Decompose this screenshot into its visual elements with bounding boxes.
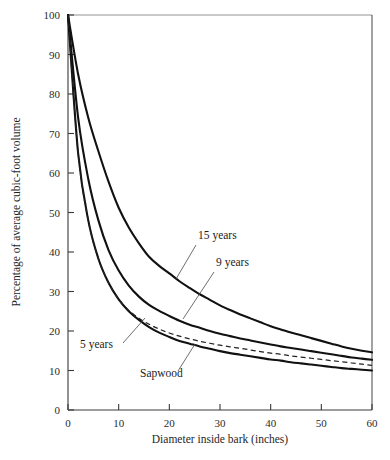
annotation-leader-line [176, 245, 196, 279]
y-tick-label: 80 [49, 88, 61, 100]
chart-series-group [68, 15, 372, 371]
y-tick-label: 90 [49, 49, 61, 61]
chart-annotations: 15 years9 years5 yearsSapwood [80, 229, 249, 380]
x-tick-label: 0 [65, 417, 71, 429]
annotation-label-9-years: 9 years [216, 256, 249, 269]
x-tick-label: 50 [316, 417, 328, 429]
chart-figure: 0102030405060708090100 0102030405060 15 … [0, 0, 390, 460]
annotation-label-sapwood: Sapwood [140, 367, 183, 380]
x-tick-label: 10 [113, 417, 125, 429]
annotation-label-15-years: 15 years [198, 229, 237, 242]
series-curve-15-years [68, 15, 372, 352]
y-tick-label: 60 [49, 167, 61, 179]
x-tick-label: 60 [367, 417, 379, 429]
y-tick-label: 20 [49, 325, 61, 337]
y-tick-label: 100 [44, 9, 61, 21]
x-tick-label: 30 [215, 417, 227, 429]
x-axis-ticks: 0102030405060 [65, 404, 378, 429]
y-tick-label: 40 [49, 246, 61, 258]
annotation-leader-line [183, 272, 214, 319]
x-tick-label: 40 [265, 417, 277, 429]
y-tick-label: 10 [49, 365, 61, 377]
y-axis-title: Percentage of average cubic-foot volume [10, 117, 23, 306]
y-tick-label: 0 [55, 404, 61, 416]
x-axis-title: Diameter inside bark (inches) [152, 433, 289, 446]
chart-svg: 0102030405060708090100 0102030405060 15 … [0, 0, 390, 460]
annotation-leader-line [123, 318, 145, 343]
series-curve-sapwood [68, 15, 372, 365]
y-tick-label: 30 [49, 286, 61, 298]
annotation-label-5-years: 5 years [80, 338, 113, 351]
series-curve-9-years [68, 15, 372, 360]
x-tick-label: 20 [164, 417, 176, 429]
y-tick-label: 50 [49, 207, 61, 219]
y-axis-ticks: 0102030405060708090100 [44, 9, 75, 416]
y-tick-label: 70 [49, 128, 61, 140]
